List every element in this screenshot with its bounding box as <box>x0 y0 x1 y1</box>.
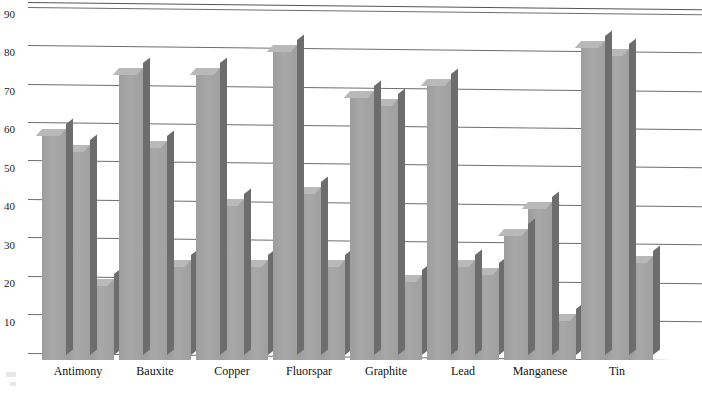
bar-group <box>427 7 507 360</box>
bar-front-face <box>42 129 66 360</box>
bar-front-face <box>350 91 374 360</box>
bar-side-face <box>66 119 73 355</box>
bar-side-face <box>297 34 304 355</box>
bar-group <box>581 7 661 360</box>
bar-side-face <box>552 192 559 355</box>
bar-group <box>42 7 122 360</box>
bar-side-face <box>321 177 328 355</box>
bar-side-face <box>143 57 150 355</box>
scan-artifact <box>10 382 16 386</box>
bar-front-face <box>196 68 220 360</box>
bar <box>504 229 528 360</box>
bar-front-face <box>427 79 451 360</box>
bar-front-face <box>581 41 605 360</box>
bar-group <box>504 7 584 360</box>
bar-group <box>273 7 353 360</box>
bar-front-face <box>504 229 528 360</box>
bar <box>42 129 66 360</box>
bar-side-face <box>220 57 227 355</box>
bar <box>196 68 220 360</box>
bar-side-face <box>244 188 251 355</box>
bar <box>581 41 605 360</box>
bar-group <box>119 7 199 360</box>
bar-group <box>196 7 276 360</box>
bar-front-face <box>273 45 297 360</box>
bars-layer <box>0 0 702 360</box>
bar-chart: 90 80 70 60 50 40 30 20 10 AntimonyBauxi… <box>0 0 702 393</box>
bar-side-face <box>629 38 636 355</box>
bar <box>119 68 143 360</box>
bar-side-face <box>475 250 482 355</box>
bar-side-face <box>605 30 612 355</box>
bar <box>427 79 451 360</box>
plot-area: 90 80 70 60 50 40 30 20 10 <box>0 0 702 360</box>
x-axis-label: Tin <box>567 364 667 379</box>
bar-side-face <box>528 219 535 355</box>
bar-side-face <box>398 88 405 355</box>
scan-artifact <box>6 372 16 377</box>
bar-group <box>350 7 430 360</box>
bar-side-face <box>451 69 458 355</box>
x-axis-labels: AntimonyBauxiteCopperFluorsparGraphiteLe… <box>0 360 702 393</box>
bar <box>273 45 297 360</box>
bar-side-face <box>167 130 174 355</box>
bar-side-face <box>374 80 381 355</box>
bar-side-face <box>90 134 97 355</box>
bar-front-face <box>119 68 143 360</box>
bar <box>350 91 374 360</box>
bar-side-face <box>653 246 660 355</box>
